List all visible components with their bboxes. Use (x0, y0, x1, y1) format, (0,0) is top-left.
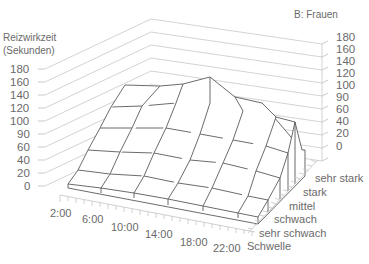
x-tick: 22:00 (213, 242, 241, 254)
depth-tick: sehr stark (315, 172, 363, 184)
left-axis-ticks (38, 69, 45, 186)
left-tick: 0 (24, 180, 30, 192)
right-tick: 0 (336, 140, 342, 152)
left-tick: 160 (10, 76, 29, 88)
right-tick: 100 (336, 79, 355, 91)
left-tick: 60 (17, 141, 30, 153)
left-tick: 20 (17, 167, 30, 179)
surface (68, 77, 305, 224)
left-tick: 120 (10, 102, 29, 114)
right-tick: 40 (336, 115, 349, 127)
depth-tick: sehr schwach (259, 227, 326, 239)
left-tick: 40 (17, 154, 30, 166)
right-tick: 20 (336, 127, 349, 139)
x-tick: 6:00 (82, 213, 103, 225)
left-tick: 90 (17, 128, 30, 140)
x-tick: 18:00 (180, 236, 208, 248)
depth-tick: schwach (274, 213, 317, 225)
y-axis-label-line-1: Reizwirkzeit (3, 32, 56, 44)
depth-tick: Schwelle (247, 240, 291, 252)
right-tick: 60 (336, 103, 349, 115)
depth-tick: stark (303, 186, 327, 198)
left-tick: 100 (10, 115, 29, 127)
left-tick: 140 (10, 89, 29, 101)
y-axis-label-line-2: (Sekunden) (3, 45, 55, 57)
right-tick: 120 (336, 67, 355, 79)
chart-title: B: Frauen (294, 9, 338, 21)
right-tick: 180 (336, 31, 355, 43)
right-axis-ticks (322, 41, 328, 161)
right-tick: 160 (336, 43, 355, 55)
right-tick: 90 (336, 91, 349, 103)
x-tick: 14:00 (145, 228, 173, 240)
x-tick: 2:00 (50, 207, 71, 219)
x-tick: 10:00 (111, 221, 139, 233)
right-tick: 140 (336, 55, 355, 67)
depth-tick: mittel (289, 200, 315, 212)
left-tick: 180 (10, 63, 29, 75)
